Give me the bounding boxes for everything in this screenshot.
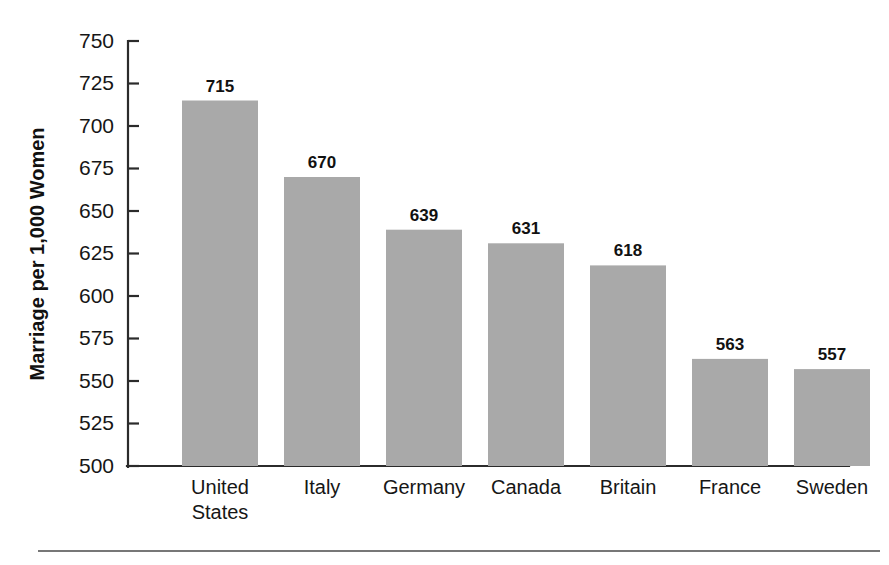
x-axis-category-labels: UnitedStatesItalyGermanyCanadaBritainFra… (191, 476, 868, 523)
bar[interactable] (590, 265, 666, 466)
y-tick-label: 700 (79, 114, 114, 137)
y-tick-label: 525 (79, 411, 114, 434)
bars-group (182, 101, 870, 467)
y-tick-label: 600 (79, 284, 114, 307)
bar-value-label: 715 (206, 77, 234, 96)
bar[interactable] (182, 101, 258, 467)
bar[interactable] (284, 177, 360, 466)
bar[interactable] (794, 369, 870, 466)
y-axis-ticks: 750725700675650625600575550525500 (79, 29, 139, 477)
category-label: France (699, 476, 761, 498)
bar-value-label: 631 (512, 219, 540, 238)
bar-chart: Marriage per 1,000 Women 750725700675650… (0, 0, 889, 565)
bar-value-label: 639 (410, 206, 438, 225)
bar-value-label: 670 (308, 153, 336, 172)
y-tick-label: 550 (79, 369, 114, 392)
category-label: UnitedStates (191, 476, 249, 523)
chart-figure: Marriage per 1,000 Women 750725700675650… (0, 0, 889, 565)
category-label: Germany (383, 476, 465, 498)
bar-value-label: 563 (716, 335, 744, 354)
bar-value-label: 618 (614, 241, 642, 260)
y-tick-label: 675 (79, 156, 114, 179)
bar[interactable] (386, 230, 462, 466)
bar[interactable] (488, 243, 564, 466)
y-axis-title: Marriage per 1,000 Women (26, 127, 48, 380)
y-tick-label: 650 (79, 199, 114, 222)
category-label: Italy (304, 476, 341, 498)
y-tick-label: 750 (79, 29, 114, 52)
y-tick-label: 500 (79, 454, 114, 477)
y-tick-label: 625 (79, 241, 114, 264)
y-tick-label: 725 (79, 71, 114, 94)
category-label: Britain (600, 476, 657, 498)
category-label: Canada (491, 476, 562, 498)
bar-value-label: 557 (818, 345, 846, 364)
y-tick-label: 575 (79, 326, 114, 349)
bar[interactable] (692, 359, 768, 466)
category-label: Sweden (796, 476, 868, 498)
